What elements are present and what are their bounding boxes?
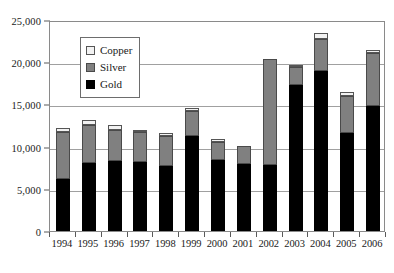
x-tick-mark — [282, 232, 283, 237]
legend-label: Gold — [100, 79, 122, 90]
bar-segment-gold — [159, 166, 173, 231]
y-tick-label: 5,000 — [17, 184, 41, 195]
bar-segment-gold — [133, 162, 147, 231]
x-tick-mark — [152, 232, 153, 237]
y-tick-label: 15,000 — [12, 100, 41, 111]
bar-segment-silver — [56, 132, 70, 178]
bar-segment-gold — [263, 165, 277, 231]
stacked-bar-chart: 05,00010,00015,00020,00025,000 199419951… — [0, 0, 394, 273]
x-tick-mark — [333, 232, 334, 237]
legend-label: Silver — [100, 62, 126, 73]
bar-segment-silver — [185, 111, 199, 135]
bar-segment-copper — [108, 125, 122, 130]
y-tick-label: 10,000 — [12, 142, 41, 153]
bar-group — [314, 20, 328, 231]
bar-segment-gold — [82, 163, 96, 231]
bar-segment-copper — [211, 139, 225, 142]
bar-segment-silver — [314, 39, 328, 71]
legend-label: Copper — [100, 45, 132, 56]
x-tick-label: 2002 — [258, 238, 279, 249]
bar-segment-copper — [340, 92, 354, 96]
x-tick-label: 2006 — [362, 238, 383, 249]
x-axis: 1994199519961997199819992000200120022003… — [49, 238, 385, 256]
bar-segment-silver — [340, 96, 354, 133]
legend-item-silver: Silver — [86, 59, 134, 76]
y-tick-label: 20,000 — [12, 58, 41, 69]
x-tick-label: 2001 — [233, 238, 254, 249]
bar-segment-copper — [133, 130, 147, 133]
x-tick-label: 2003 — [284, 238, 305, 249]
bar-segment-copper — [159, 133, 173, 136]
bar-segment-copper — [82, 120, 96, 124]
bar-segment-silver — [82, 125, 96, 164]
bar-group — [159, 20, 173, 231]
bar-group — [185, 20, 199, 231]
bar-segment-gold — [185, 136, 199, 231]
x-tick-label: 2000 — [207, 238, 228, 249]
bar-segment-silver — [108, 130, 122, 161]
bar-segment-copper — [289, 65, 303, 67]
bar-segment-gold — [108, 161, 122, 231]
x-tick-mark — [359, 232, 360, 237]
bar-segment-silver — [133, 132, 147, 162]
chart-legend: CopperSilverGold — [80, 37, 140, 98]
bar-group — [340, 20, 354, 231]
y-axis: 05,00010,00015,00020,00025,000 — [0, 21, 41, 232]
bar-group — [211, 20, 225, 231]
x-tick-label: 1998 — [155, 238, 176, 249]
x-tick-mark — [230, 232, 231, 237]
x-tick-mark — [178, 232, 179, 237]
x-tick-label: 2004 — [310, 238, 331, 249]
x-tick-label: 1996 — [103, 238, 124, 249]
x-tick-label: 1997 — [129, 238, 150, 249]
legend-swatch-gold-icon — [86, 80, 95, 89]
bar-segment-silver — [263, 59, 277, 165]
bar-segment-silver — [289, 67, 303, 85]
x-tick-label: 1995 — [77, 238, 98, 249]
bar-segment-gold — [237, 164, 251, 231]
bar-segment-gold — [340, 133, 354, 231]
bar-segment-copper — [314, 33, 328, 40]
bar-segment-gold — [289, 85, 303, 231]
x-tick-mark — [127, 232, 128, 237]
bar-group — [366, 20, 380, 231]
legend-swatch-silver-icon — [86, 63, 95, 72]
legend-item-copper: Copper — [86, 42, 134, 59]
legend-item-gold: Gold — [86, 76, 134, 93]
x-tick-mark — [204, 232, 205, 237]
bar-segment-copper — [56, 128, 70, 132]
y-tick-label: 0 — [36, 227, 41, 238]
bar-group — [263, 20, 277, 231]
bar-group — [237, 20, 251, 231]
y-tick-label: 25,000 — [12, 16, 41, 27]
bar-group — [56, 20, 70, 231]
x-tick-mark — [385, 232, 386, 237]
bar-segment-silver — [366, 53, 380, 106]
bar-segment-copper — [185, 108, 199, 111]
legend-swatch-copper-icon — [86, 46, 95, 55]
x-tick-mark — [75, 232, 76, 237]
x-tick-label: 2005 — [336, 238, 357, 249]
x-tick-mark — [101, 232, 102, 237]
bar-segment-gold — [211, 160, 225, 231]
bar-segment-silver — [159, 136, 173, 166]
bar-segment-gold — [366, 106, 380, 231]
x-tick-mark — [49, 232, 50, 237]
bar-segment-silver — [211, 142, 225, 161]
bar-segment-silver — [237, 146, 251, 165]
x-tick-label: 1994 — [52, 238, 73, 249]
bar-segment-gold — [56, 179, 70, 231]
bar-segment-gold — [314, 71, 328, 231]
bar-group — [289, 20, 303, 231]
x-tick-label: 1999 — [181, 238, 202, 249]
x-tick-mark — [307, 232, 308, 237]
x-tick-mark — [256, 232, 257, 237]
bar-segment-copper — [366, 50, 380, 53]
